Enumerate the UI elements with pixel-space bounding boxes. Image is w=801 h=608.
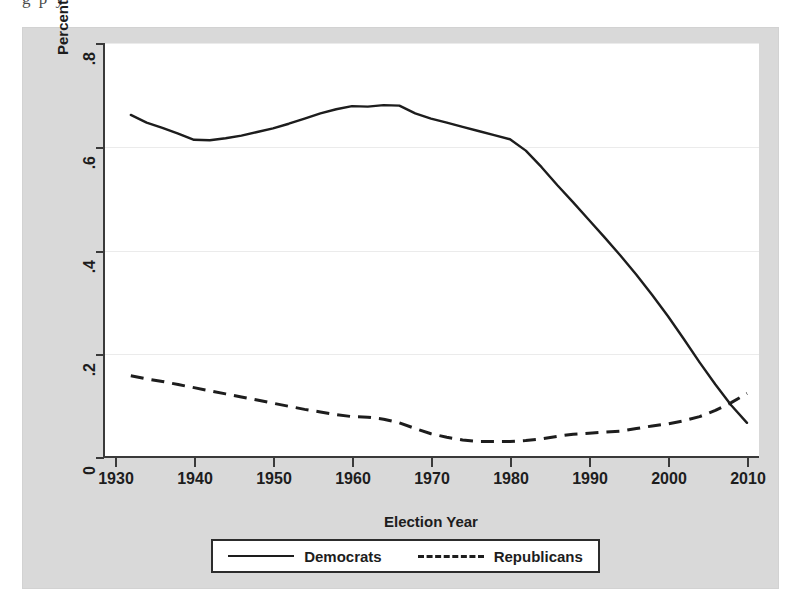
y-tick-label-0.6: .6 (81, 156, 99, 169)
x-tick-1950 (273, 458, 275, 467)
legend-label-republicans: Republicans (494, 548, 583, 565)
x-axis-line (103, 456, 759, 458)
figure-panel: Percent Cross-pressured/Moderate Members… (22, 27, 779, 589)
y-tick-label-0.4: .4 (81, 260, 99, 273)
x-tick-label-1950: 1950 (256, 470, 292, 488)
y-axis-title: Percent Cross-pressured/Moderate Members (54, 0, 71, 55)
x-tick-1990 (589, 458, 591, 467)
y-axis-line (103, 43, 105, 458)
x-tick-1980 (510, 458, 512, 467)
x-tick-2010 (747, 458, 749, 467)
x-tick-label-2010: 2010 (730, 470, 766, 488)
x-tick-1930 (115, 458, 117, 467)
series-line-republicans (131, 376, 747, 442)
y-tick-label-0.2: .2 (81, 363, 99, 376)
x-tick-label-1980: 1980 (493, 470, 529, 488)
x-tick-label-1930: 1930 (98, 470, 134, 488)
x-tick-1940 (194, 458, 196, 467)
legend-swatch-dashed-line-icon (418, 555, 484, 558)
legend-swatch-solid-line-icon (228, 555, 294, 557)
y-tick-label-0.8: .8 (81, 52, 99, 65)
x-tick-label-1960: 1960 (335, 470, 371, 488)
y-tick-label-0: 0 (81, 466, 99, 475)
y-axis-title-container: Percent Cross-pressured/Moderate Members (56, 47, 78, 477)
chart-legend: Democrats Republicans (211, 539, 600, 573)
legend-entry-democrats: Democrats (228, 548, 382, 565)
x-tick-label-1970: 1970 (414, 470, 450, 488)
x-tick-label-1940: 1940 (177, 470, 213, 488)
x-tick-1960 (352, 458, 354, 467)
series-line-democrats (131, 105, 747, 423)
series-layer (103, 43, 759, 458)
x-axis-title: Election Year (103, 513, 759, 530)
plot-area: .8 .6 .4 .2 0 1930 1940 1950 1960 1970 1… (103, 43, 759, 458)
x-tick-label-1990: 1990 (572, 470, 608, 488)
legend-entry-republicans: Republicans (418, 548, 583, 565)
legend-label-democrats: Democrats (304, 548, 382, 565)
x-tick-1970 (431, 458, 433, 467)
x-tick-2000 (668, 458, 670, 467)
x-tick-label-2000: 2000 (651, 470, 687, 488)
